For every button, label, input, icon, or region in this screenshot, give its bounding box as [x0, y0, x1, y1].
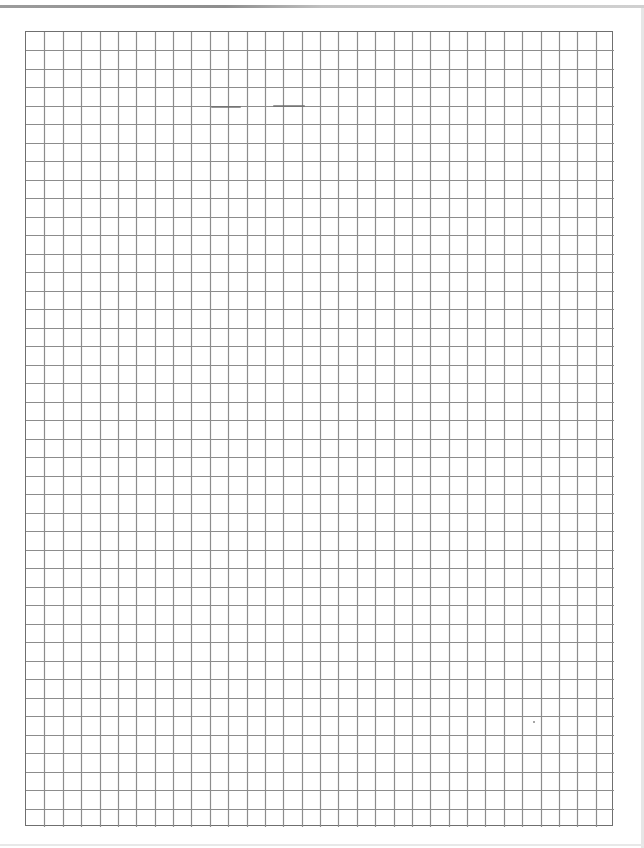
scan-artifact-right	[273, 105, 305, 107]
grid-lines	[26, 32, 614, 827]
scan-artifact-left	[211, 106, 241, 108]
scan-bottom-edge	[0, 844, 644, 846]
graph-paper-grid	[25, 31, 613, 826]
scan-top-edge	[0, 5, 644, 8]
scan-speck	[533, 721, 535, 723]
